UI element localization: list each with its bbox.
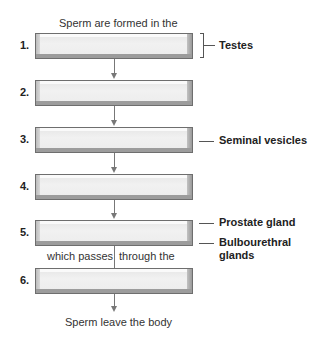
step-box-6[interactable] (35, 268, 193, 294)
arrow-line-4-5 (114, 200, 115, 214)
step-number-1: 1. (20, 39, 29, 51)
bottom-caption: Sperm leave the body (65, 316, 172, 328)
step-number-6: 6. (20, 274, 29, 286)
step-box-2[interactable] (35, 80, 193, 106)
arrow-down-icon (111, 167, 117, 173)
arrow-line-1-2 (114, 59, 115, 74)
label-seminal-vesicles: Seminal vesicles (219, 134, 307, 146)
step-number-5: 5. (20, 226, 29, 238)
arrow-line-3-4 (114, 153, 115, 168)
prostate-leader-line (199, 223, 214, 224)
mid-caption-right: through the (119, 250, 175, 262)
step-number-3: 3. (20, 133, 29, 145)
arrow-down-icon (111, 306, 117, 312)
bulbourethral-leader-line (199, 243, 214, 244)
arrow-line-2-3 (114, 106, 115, 121)
label-prostate-gland: Prostate gland (219, 216, 295, 228)
step-box-4[interactable] (35, 174, 193, 200)
step-number-4: 4. (20, 180, 29, 192)
step-number-2: 2. (20, 86, 29, 98)
label-bulbourethral-line1: Bulbourethral (219, 236, 291, 248)
arrow-down-icon (111, 213, 117, 219)
seminal-leader-line (199, 141, 214, 142)
arrow-down-icon (111, 120, 117, 126)
mid-caption-left: which passes (47, 250, 113, 262)
step-box-5[interactable] (35, 220, 193, 246)
label-bulbourethral-line2: glands (219, 249, 254, 261)
line-5-6 (114, 246, 115, 268)
testes-leader-line (204, 45, 215, 46)
label-testes: Testes (219, 39, 253, 51)
step-box-3[interactable] (35, 127, 193, 153)
top-caption: Sperm are formed in the (59, 17, 178, 29)
arrow-down-icon (111, 73, 117, 79)
step-box-1[interactable] (35, 33, 193, 59)
